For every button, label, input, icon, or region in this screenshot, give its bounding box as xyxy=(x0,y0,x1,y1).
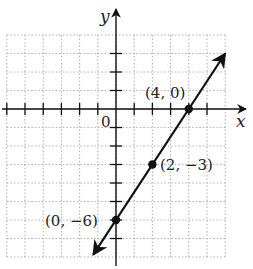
point-label-0-neg6: (0, −6) xyxy=(45,212,98,230)
axes xyxy=(2,9,246,266)
point-label-2-neg3: (2, −3) xyxy=(160,156,213,174)
origin-label: 0 xyxy=(101,113,111,131)
axis-ticks xyxy=(7,54,207,239)
x-axis-label: x xyxy=(236,111,246,131)
coordinate-plane: x y 0 (4, 0) (2, −3) (0, −6) xyxy=(0,0,253,269)
point-label-4-0: (4, 0) xyxy=(145,84,185,102)
y-axis-label: y xyxy=(99,6,110,26)
